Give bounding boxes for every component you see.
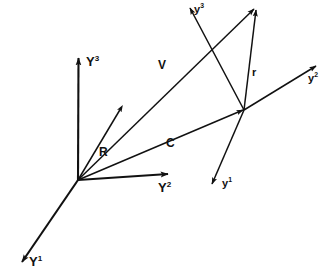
axis-label-y1: y1 xyxy=(222,178,232,189)
axis-label-Y3-exponent: 3 xyxy=(95,54,99,63)
axis-label-y3: y3 xyxy=(194,4,204,15)
axis-label-y1-exponent: 1 xyxy=(228,176,232,183)
global-frame-axes xyxy=(22,58,168,262)
axis-label-Y3: Y3 xyxy=(86,55,99,68)
axis-label-Y2-base: Y xyxy=(158,180,167,195)
axis-label-Y2: Y2 xyxy=(158,181,171,194)
axis-label-y2: y2 xyxy=(308,73,318,84)
axis-label-y3-exponent: 3 xyxy=(200,2,204,9)
vector-label-V: V xyxy=(158,59,166,71)
axis-label-Y1: Y1 xyxy=(29,255,42,268)
axis-label-Y1-base: Y xyxy=(29,254,38,269)
axis-label-y2-exponent: 2 xyxy=(314,71,318,78)
vector-diagram-canvas xyxy=(0,0,328,273)
axis-label-Y3-base: Y xyxy=(86,54,95,69)
vector-label-R: R xyxy=(99,146,108,158)
vector-label-r: r xyxy=(252,67,256,78)
vector-r-line xyxy=(244,10,256,110)
axis-Y3-line xyxy=(78,58,79,180)
vector-diagram-figure: Y3 Y2 Y1 y3 y2 y1 R C V r xyxy=(0,0,328,273)
vector-label-C: C xyxy=(166,137,175,149)
axis-y3-line xyxy=(190,8,244,110)
axis-label-Y1-exponent: 1 xyxy=(38,254,42,263)
axis-label-Y2-exponent: 2 xyxy=(167,180,171,189)
axis-Y1-line xyxy=(22,180,78,262)
